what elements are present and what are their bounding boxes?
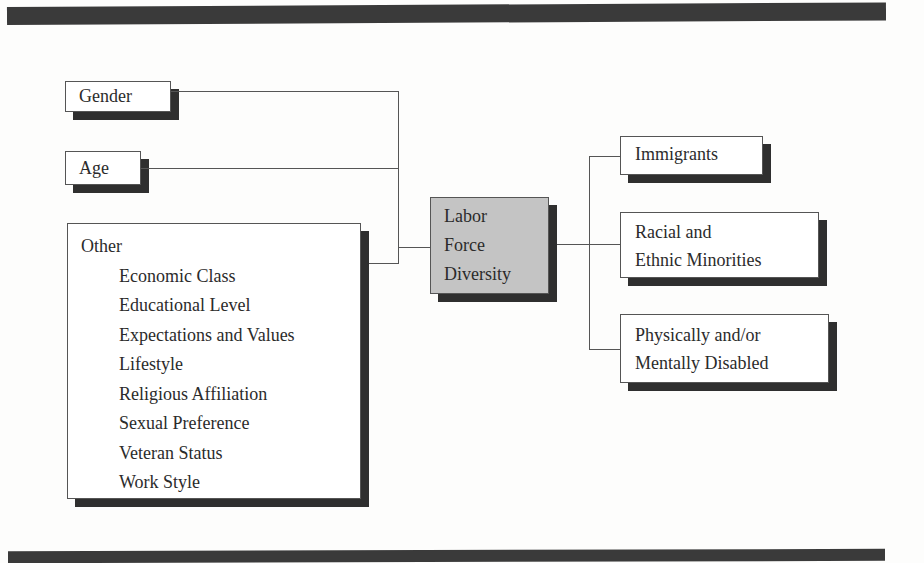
center-line-1: Labor xyxy=(444,202,548,231)
node-racial-line-1: Racial and xyxy=(635,218,818,246)
node-other-heading: Other xyxy=(81,232,360,262)
bottom-rule xyxy=(8,549,885,563)
node-labor-force-diversity: Labor Force Diversity xyxy=(430,197,549,294)
connector-age xyxy=(141,168,398,169)
node-gender-label: Gender xyxy=(79,85,170,108)
connector-other xyxy=(369,263,398,264)
connector-left-trunk xyxy=(398,91,399,264)
other-item: Religious Affiliation xyxy=(81,380,360,410)
node-age: Age xyxy=(65,151,141,185)
connector-immigrants xyxy=(589,156,620,157)
node-racial-ethnic-minorities: Racial and Ethnic Minorities xyxy=(620,212,819,278)
node-gender: Gender xyxy=(65,81,171,112)
node-other: Other Economic Class Educational Level E… xyxy=(67,223,361,499)
node-age-label: Age xyxy=(79,157,140,180)
other-item: Veteran Status xyxy=(81,439,360,469)
connector-left-to-center xyxy=(398,247,430,248)
node-disabled-line-1: Physically and/or xyxy=(635,321,828,349)
other-item: Educational Level xyxy=(81,291,360,321)
node-immigrants-label: Immigrants xyxy=(635,143,762,166)
node-disabled-line-2: Mentally Disabled xyxy=(635,349,828,377)
connector-right-trunk xyxy=(589,156,590,350)
connector-gender xyxy=(171,91,398,92)
other-item: Lifestyle xyxy=(81,350,360,380)
other-item: Expectations and Values xyxy=(81,321,360,351)
node-racial-line-2: Ethnic Minorities xyxy=(635,246,818,274)
node-immigrants: Immigrants xyxy=(620,136,763,175)
center-line-3: Diversity xyxy=(444,260,548,289)
other-item: Work Style xyxy=(81,468,360,498)
top-rule xyxy=(7,2,886,25)
other-item: Sexual Preference xyxy=(81,409,360,439)
center-line-2: Force xyxy=(444,231,548,260)
other-item: Economic Class xyxy=(81,262,360,292)
node-physically-mentally-disabled: Physically and/or Mentally Disabled xyxy=(620,314,829,383)
connector-disabled xyxy=(589,349,620,350)
